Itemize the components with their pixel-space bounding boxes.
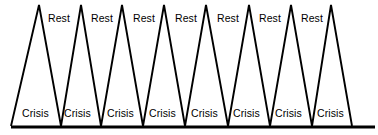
sawtooth-chart [0, 0, 378, 135]
zigzag-line [11, 5, 352, 126]
crisis-rest-diagram: RestRestRestRestRestRestRest CrisisCrisi… [0, 0, 378, 135]
